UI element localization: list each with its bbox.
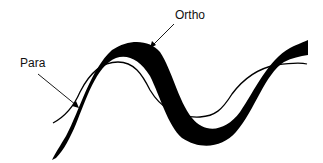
para-arrow-line (38, 74, 76, 105)
diagram-canvas: Ortho Para (0, 0, 323, 163)
ortho-arrow-line (152, 24, 174, 46)
ortho-label: Ortho (175, 9, 205, 21)
wave-diagram (0, 0, 323, 163)
ortho-band (52, 40, 308, 160)
para-label: Para (20, 57, 45, 69)
